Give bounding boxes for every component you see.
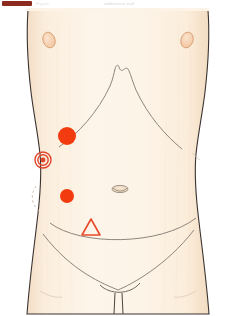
marker-filled-lower[interactable]: [60, 189, 74, 203]
figure-page: Figure abdominal wall: [0, 0, 236, 316]
torso-body-shape: [27, 10, 209, 314]
abdomen-anatomy-diagram: [0, 8, 236, 316]
marker-filled-upper[interactable]: [58, 127, 76, 145]
header-accent-bar: [2, 1, 32, 6]
header-caption-right: abdominal wall: [104, 0, 135, 8]
header-caption-left: Figure: [36, 0, 49, 8]
torso-top-edge: [27, 8, 209, 11]
marker-bullseye[interactable]: [35, 152, 51, 168]
